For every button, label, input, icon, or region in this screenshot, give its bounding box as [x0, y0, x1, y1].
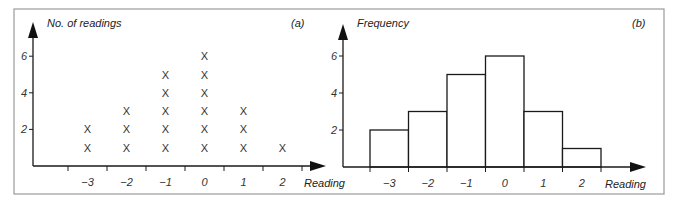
dot-plot-mark: X — [201, 87, 209, 99]
panel-a-y-label: No. of readings — [47, 17, 122, 29]
figure: No. of readings (a) Reading 246 −3−2−101… — [0, 0, 678, 203]
dot-plot-mark: X — [279, 142, 287, 154]
panel-b-x-tick-label: −2 — [421, 177, 434, 189]
histogram-bar — [486, 56, 525, 167]
histogram-bar — [447, 75, 486, 168]
dot-plot-mark: X — [201, 50, 209, 62]
panel-a-x-tick-label: 2 — [278, 176, 285, 188]
dot-plot-mark: X — [123, 123, 131, 135]
panel-b-y-tick-label: 6 — [331, 50, 338, 62]
panel-a-y-tick-label: 2 — [20, 123, 27, 135]
dot-plot-mark: X — [240, 105, 248, 117]
histogram-bar — [524, 112, 563, 168]
panel-b-y-tick-label: 4 — [331, 87, 337, 99]
panel-b-x-tick-label: 2 — [578, 177, 585, 189]
dot-plot-mark: X — [123, 142, 131, 154]
panel-a-x-tick-label: 1 — [240, 176, 246, 188]
dot-plot-mark: X — [201, 105, 209, 117]
panel-b-y-label: Frequency — [357, 17, 410, 29]
histogram-bar — [409, 112, 448, 168]
dot-plot-mark: X — [201, 123, 209, 135]
histogram-bar — [370, 130, 409, 167]
panel-a-y-tick-label: 4 — [21, 87, 27, 99]
panel-b-x-tick-label: −3 — [383, 177, 396, 189]
panel-b-panel-label: (b) — [632, 17, 646, 29]
panel-b-y-tick-label: 2 — [330, 124, 337, 136]
dot-plot-mark: X — [162, 123, 170, 135]
dot-plot-mark: X — [201, 69, 209, 81]
dot-plot-mark: X — [84, 142, 92, 154]
dot-plot-mark: X — [84, 123, 92, 135]
histogram-bar — [563, 149, 602, 168]
dot-plot-mark: X — [240, 142, 248, 154]
panel-a-x-tick-label: 0 — [201, 176, 208, 188]
panel-a-x-tick-label: −3 — [81, 176, 94, 188]
dot-plot-mark: X — [123, 105, 131, 117]
dot-plot-mark: X — [162, 87, 170, 99]
dot-plot-mark: X — [162, 105, 170, 117]
panel-a-y-tick-label: 6 — [21, 50, 28, 62]
dot-plot-mark: X — [240, 123, 248, 135]
dot-plot-mark: X — [162, 142, 170, 154]
panel-a-x-tick-label: −2 — [120, 176, 133, 188]
panel-a-x-label: Reading — [304, 177, 346, 189]
panel-a-panel-label: (a) — [291, 17, 305, 29]
panel-b-x-tick-label: 0 — [502, 177, 509, 189]
dot-plot-mark: X — [162, 69, 170, 81]
panel-b-x-tick-label: 1 — [540, 177, 546, 189]
panel-b-x-tick-label: −1 — [460, 177, 473, 189]
dot-plot-mark: X — [201, 142, 209, 154]
panel-b-x-label: Reading — [605, 178, 647, 190]
panel-a-x-tick-label: −1 — [159, 176, 172, 188]
